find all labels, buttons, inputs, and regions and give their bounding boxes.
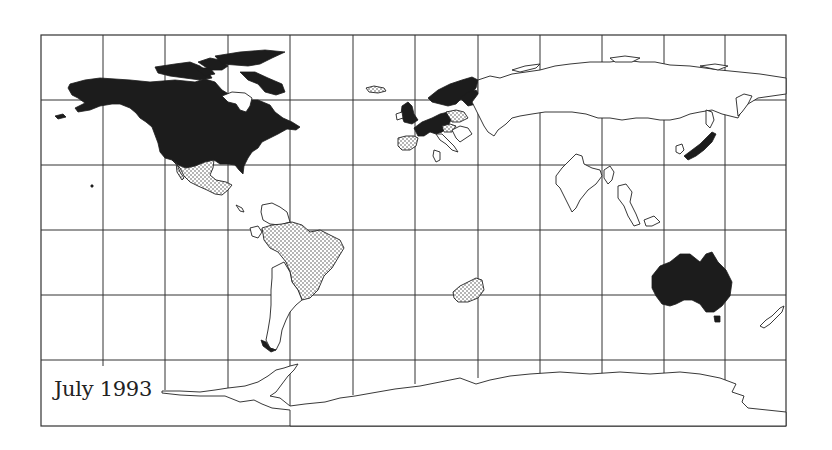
map-date-label: July 1993: [54, 377, 152, 401]
region-oceania: [652, 252, 784, 328]
region-antarctica: [162, 364, 786, 426]
region-south-america: [250, 203, 344, 352]
region-iceland: [366, 86, 386, 93]
region-north-america: [55, 50, 300, 174]
region-asia: [472, 56, 786, 226]
region-sakhalin: [706, 110, 714, 128]
region-europe: [396, 77, 480, 162]
region-caribbean: [236, 205, 244, 212]
region-japan: [684, 132, 716, 160]
region-south-africa: [453, 278, 484, 302]
region-hawaii: [91, 185, 93, 187]
